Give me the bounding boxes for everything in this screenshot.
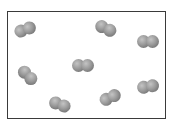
atom-sphere (81, 59, 94, 72)
atom-sphere (146, 35, 159, 48)
